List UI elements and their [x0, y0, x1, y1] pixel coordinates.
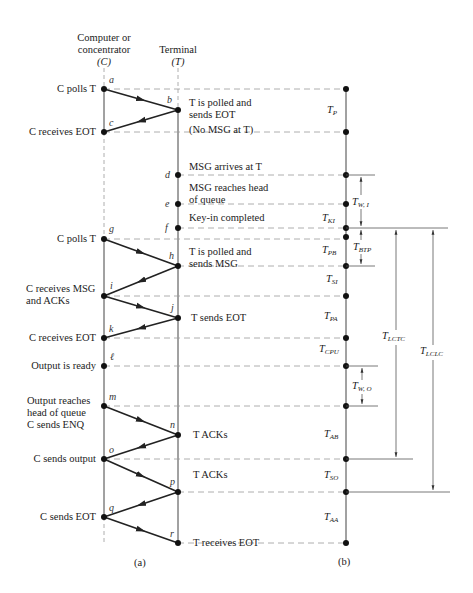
interval-twi: TW, I	[352, 196, 369, 209]
interval-sub: W, O	[358, 385, 372, 393]
interval-tbtp: TBTP	[353, 241, 371, 254]
interval-tlctc: TLCTC	[382, 330, 405, 343]
interval-sub: LCTC	[388, 335, 405, 343]
label-line: of queue	[189, 194, 268, 206]
point-e: e	[165, 198, 169, 209]
point-j: j	[171, 302, 174, 313]
label-c-polls-t-2: C polls T	[57, 233, 96, 245]
label-output-ready: Output is ready	[31, 360, 96, 372]
label-line: sends MSG	[189, 258, 252, 270]
label-t-receives-eot: T receives EOT	[193, 537, 259, 549]
label-line: T is polled and	[189, 97, 253, 109]
label-line: head of queue	[27, 407, 90, 419]
interval-sub: PA	[330, 315, 338, 323]
interval-tpb: TPB	[322, 244, 336, 257]
interval-sub: P	[333, 109, 337, 117]
interval-sub: AA	[330, 516, 339, 524]
point-b: b	[167, 94, 172, 105]
label-t-acks-2: T ACKs	[193, 469, 228, 481]
point-a: a	[109, 74, 114, 85]
label-output-reaches-head: Output reaches head of queue C sends ENQ	[27, 395, 90, 431]
computer-header-line2: concentrator	[58, 44, 150, 56]
computer-header-line1: Computer or	[58, 32, 150, 44]
label-line: T is polled and	[189, 246, 252, 258]
point-i: i	[110, 280, 113, 291]
label-t-polled-msg: T is polled and sends MSG	[189, 246, 252, 270]
point-q: q	[109, 502, 114, 513]
message-arrows	[104, 89, 178, 543]
interval-sub: PB	[328, 249, 337, 257]
label-c-polls-t-1: C polls T	[57, 83, 96, 95]
interval-sub: AB	[330, 433, 339, 441]
interval-sub: KI	[328, 217, 335, 225]
point-d: d	[165, 169, 170, 180]
point-g: g	[109, 223, 114, 234]
label-line: sends EOT	[189, 109, 253, 121]
interval-tp: TP	[327, 104, 337, 117]
interval-two: TW, O	[352, 380, 372, 393]
label-msg-reaches-head: MSG reaches head of queue	[189, 182, 268, 206]
interval-sub: SO	[330, 474, 339, 482]
interval-sub: W, I	[358, 201, 369, 209]
point-n: n	[170, 419, 175, 430]
label-t-acks-1: T ACKs	[193, 429, 228, 441]
label-c-sends-output: C sends output	[34, 453, 96, 465]
label-line: C sends ENQ	[27, 419, 90, 431]
interval-tpa: TPA	[324, 310, 338, 323]
point-l: ℓ	[110, 351, 114, 362]
point-m: m	[109, 391, 116, 402]
caption-a: (a)	[134, 557, 146, 569]
interval-tsi: TSI	[326, 273, 338, 286]
interval-tki: TKI	[322, 212, 335, 225]
label-line: Output reaches	[27, 395, 90, 407]
point-r: r	[170, 528, 174, 539]
terminal-column-header: Terminal (T)	[148, 44, 208, 68]
interval-taa: TAA	[324, 511, 338, 524]
interval-sub: LCLC	[426, 350, 443, 358]
interval-sub: BTP	[359, 246, 371, 254]
label-line: C receives MSG	[26, 283, 95, 295]
interval-sub: SI	[332, 278, 338, 286]
point-c: c	[109, 117, 113, 128]
label-t-polled-eot: T is polled and sends EOT (No MSG at T)	[189, 97, 253, 136]
terminal-header-line1: Terminal	[148, 44, 208, 56]
interval-sub: CPU	[325, 348, 339, 356]
interval-tlclc: TLCLC	[420, 345, 443, 358]
label-line: (No MSG at T)	[189, 124, 253, 136]
computer-column-header: Computer or concentrator (C)	[58, 32, 150, 68]
label-c-sends-eot: C sends EOT	[40, 511, 96, 523]
label-c-receives-eot-2: C receives EOT	[29, 332, 96, 344]
label-t-sends-eot: T sends EOT	[191, 312, 246, 324]
terminal-header-symbol: (T)	[148, 56, 208, 68]
label-key-in-completed: Key-in completed	[189, 212, 265, 224]
interval-tso: TSO	[324, 469, 338, 482]
interval-tab: TAB	[324, 428, 338, 441]
caption-b: (b)	[338, 556, 350, 568]
point-f: f	[165, 222, 168, 233]
label-c-receives-eot-1: C receives EOT	[29, 126, 96, 138]
label-msg-arrives: MSG arrives at T	[189, 161, 262, 173]
point-o: o	[109, 444, 114, 455]
label-c-receives-msg: C receives MSG and ACKs	[26, 283, 95, 307]
point-p: p	[170, 476, 175, 487]
computer-header-symbol: (C)	[58, 56, 150, 68]
label-line: MSG reaches head	[189, 182, 268, 194]
point-k: k	[109, 323, 113, 334]
interval-tcpu: TCPU	[319, 343, 339, 356]
point-h: h	[169, 250, 174, 261]
label-line: and ACKs	[26, 295, 95, 307]
